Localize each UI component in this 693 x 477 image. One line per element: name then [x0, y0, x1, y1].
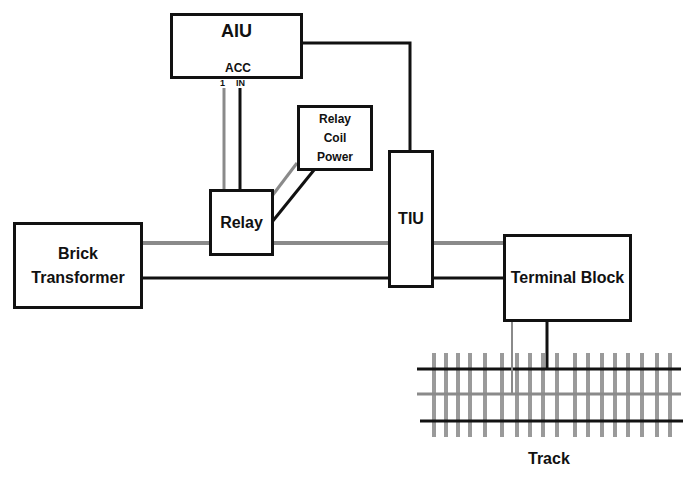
relay-coil-power-line3: Power: [317, 148, 353, 167]
brick-transformer-line1: Brick: [58, 242, 98, 266]
aiu-port-in-label: IN: [236, 78, 245, 88]
brick-transformer-line2: Transformer: [31, 266, 124, 290]
tiu-label: TIU: [398, 210, 424, 228]
relay-coil-power-box: Relay Coil Power: [297, 105, 373, 171]
relay-label: Relay: [220, 214, 263, 232]
track-label: Track: [528, 450, 570, 468]
aiu-label: AIU: [221, 21, 252, 42]
tiu-box: TIU: [388, 150, 434, 288]
terminal-block-label: Terminal Block: [511, 269, 625, 287]
aiu-acc-label: ACC: [225, 61, 251, 75]
relay-coil-power-line1: Relay: [319, 110, 351, 129]
wire-coil-gray: [272, 163, 297, 196]
aiu-box: AIU ACC: [170, 13, 303, 79]
terminal-block-box: Terminal Block: [503, 234, 632, 322]
relay-box: Relay: [209, 189, 274, 256]
aiu-port-1-label: 1: [220, 78, 225, 88]
relay-coil-power-line2: Coil: [324, 129, 347, 148]
brick-transformer-box: Brick Transformer: [13, 222, 143, 309]
wire-coil-black: [272, 170, 314, 222]
